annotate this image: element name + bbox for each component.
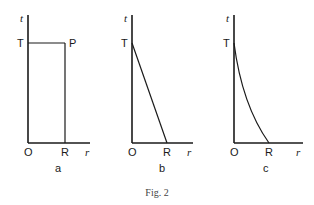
t-axis-label: t [226, 12, 230, 24]
point-T-label: T [223, 37, 230, 49]
point-O-label: O [230, 146, 239, 158]
panel-b: t T O R r b [121, 12, 193, 174]
line-T-R [132, 43, 167, 143]
point-R-label: R [163, 146, 171, 158]
point-R-label: R [61, 146, 69, 158]
t-axis-label: t [124, 12, 128, 24]
panel-a: t T P O R r a [17, 12, 90, 174]
point-O-label: O [128, 146, 137, 158]
r-axis-label: r [296, 146, 301, 158]
panel-label: a [55, 162, 62, 174]
panel-label: b [159, 162, 165, 174]
point-P-label: P [69, 37, 76, 49]
point-T-label: T [17, 37, 24, 49]
curve-T-R [234, 43, 269, 143]
point-R-label: R [265, 146, 273, 158]
point-T-label: T [121, 37, 128, 49]
panel-c: t T O R r c [223, 12, 303, 174]
point-O-label: O [24, 146, 33, 158]
panel-label: c [263, 162, 269, 174]
r-axis-label: r [85, 146, 90, 158]
t-axis-label: t [20, 12, 24, 24]
figure-2: t T P O R r a t T O R r b t T O R r c Fi… [0, 0, 314, 205]
figure-caption: Fig. 2 [145, 187, 168, 198]
r-axis-label: r [187, 146, 192, 158]
